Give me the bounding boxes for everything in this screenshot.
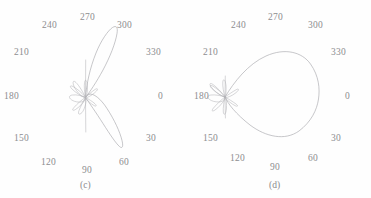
- main-lobe-0-d: [225, 52, 319, 137]
- angle-label-150-c: 150: [14, 134, 29, 144]
- side-lobe-f-c: [73, 98, 86, 111]
- polar-plot-panel-d: 270 300 240 330 210 0 180 30 150 60 120 …: [186, 0, 371, 198]
- panel-caption-d: (d): [269, 181, 280, 191]
- angle-label-180-d: 180: [194, 92, 209, 102]
- angle-label-30-d: 30: [331, 134, 341, 144]
- angle-label-0-c: 0: [158, 92, 163, 102]
- main-lobe-60-c: [86, 94, 123, 147]
- angle-label-210-c: 210: [14, 48, 29, 58]
- angle-label-120-d: 120: [230, 154, 245, 164]
- side-lobe-b-c: [69, 95, 85, 102]
- angle-label-150-d: 150: [203, 134, 218, 144]
- angle-label-330-c: 330: [146, 48, 161, 58]
- angle-label-240-c: 240: [42, 21, 57, 31]
- side-lobe-e-c: [70, 86, 85, 98]
- angle-label-30-c: 30: [146, 134, 156, 144]
- angle-label-60-d: 60: [308, 154, 318, 164]
- angle-label-0-d: 0: [345, 92, 350, 102]
- main-lobe-300-c: [86, 27, 118, 98]
- angle-label-270-d: 270: [268, 13, 283, 23]
- angle-label-330-d: 330: [331, 48, 346, 58]
- angle-label-60-c: 60: [119, 158, 129, 168]
- angle-label-120-c: 120: [41, 158, 56, 168]
- angle-label-180-c: 180: [4, 92, 19, 102]
- panel-caption-c: (c): [80, 181, 91, 191]
- angle-label-300-c: 300: [117, 21, 132, 31]
- angle-label-90-d: 90: [270, 163, 280, 173]
- angle-label-90-c: 90: [82, 166, 92, 176]
- angle-label-300-d: 300: [308, 21, 323, 31]
- angle-label-240-d: 240: [231, 21, 246, 31]
- side-lobe-h-d: [225, 97, 238, 106]
- polar-plot-panel-c: 270 300 240 330 210 0 180 30 150 60 120 …: [0, 0, 186, 198]
- angle-label-210-d: 210: [203, 48, 218, 58]
- angle-label-270-c: 270: [80, 13, 95, 23]
